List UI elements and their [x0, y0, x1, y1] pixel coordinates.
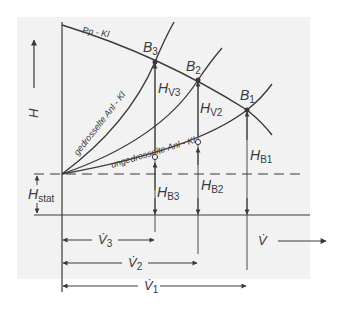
v1-label: V̇1 [144, 278, 159, 295]
h-axis-label: H [26, 108, 41, 118]
v-axis-label: V̇ [258, 233, 268, 248]
b3-unthrottled-circle [152, 154, 157, 159]
b3-point [153, 60, 158, 65]
b2-point [196, 78, 201, 83]
b1-point [245, 108, 250, 113]
b2-unthrottled-circle [195, 139, 200, 144]
pump-system-curve-diagram: H V̇ Pp - Kl gedrosselte Anl - Kl ungedr… [0, 0, 344, 311]
